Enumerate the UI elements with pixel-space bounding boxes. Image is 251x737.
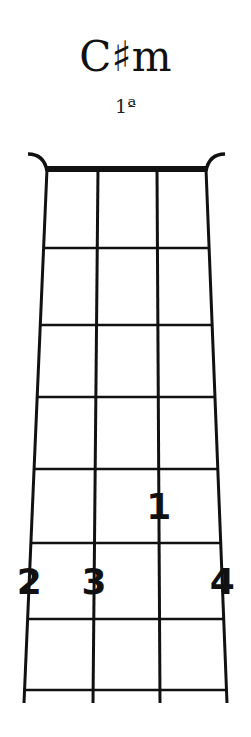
string-1 — [24, 169, 47, 703]
left-horn — [28, 154, 47, 171]
nut — [47, 166, 206, 172]
string-4 — [206, 169, 227, 703]
finger-label-string-3: 1 — [146, 486, 171, 527]
chord-diagram: 2314 — [0, 0, 251, 737]
finger-label-string-1: 2 — [17, 561, 42, 602]
finger-label-string-4: 4 — [210, 561, 235, 602]
finger-label-string-2: 3 — [82, 561, 107, 602]
right-horn — [206, 154, 225, 171]
frets — [25, 248, 227, 690]
